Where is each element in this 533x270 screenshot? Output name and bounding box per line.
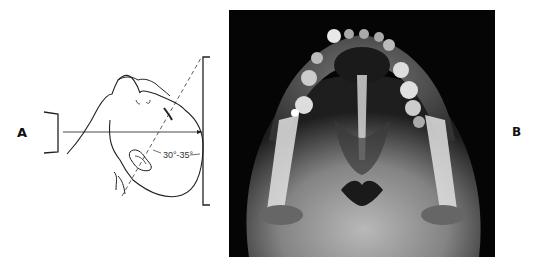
angled-central-ray xyxy=(122,58,201,196)
positioning-diagram: 30°-35° xyxy=(0,0,230,270)
angle-annotation: 30°-35° xyxy=(163,150,194,160)
tube-bracket xyxy=(44,112,58,153)
head-outline xyxy=(67,75,203,196)
image-receptor xyxy=(203,57,210,205)
panel-b-label: B xyxy=(512,125,521,139)
ear xyxy=(129,150,151,171)
radiograph-image xyxy=(229,10,495,257)
